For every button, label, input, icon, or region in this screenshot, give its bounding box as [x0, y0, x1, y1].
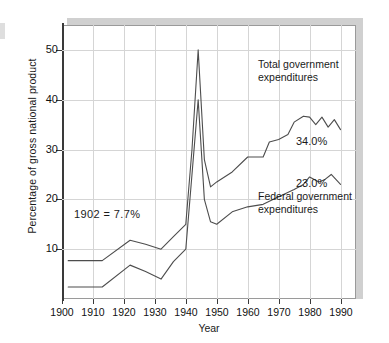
federal-series-label-line2: expenditures	[258, 203, 318, 215]
x-tick-mark	[186, 299, 187, 304]
total-series-label: Total governmentexpenditures	[258, 58, 339, 84]
x-tick-mark	[310, 299, 311, 304]
chart-figure: 1020304050 19001910192019301940195019601…	[0, 0, 389, 343]
y-axis-label: Percentage of gross national product	[26, 36, 38, 256]
plot-shadow-right	[356, 18, 363, 299]
x-tick-label: 1990	[321, 306, 361, 318]
baseline-annotation: 1902 = 7.7%	[74, 208, 140, 221]
y-tick-label: 30	[36, 144, 58, 155]
x-tick-mark	[155, 299, 156, 304]
scan-edge-artifact	[0, 23, 5, 39]
x-tick-mark	[62, 299, 63, 304]
x-tick-mark	[93, 299, 94, 304]
y-tick-label: 50	[36, 44, 58, 55]
y-tick-label: 20	[36, 193, 58, 204]
x-axis-label: Year	[62, 322, 356, 334]
total-series-label-line1: Total government	[258, 58, 339, 70]
plot-shadow-top	[67, 18, 363, 25]
total-series-label-line2: expenditures	[258, 71, 318, 83]
y-tick-label: 10	[36, 243, 58, 254]
total-end-value: 34.0%	[296, 135, 327, 148]
x-tick-mark	[217, 299, 218, 304]
x-tick-mark	[124, 299, 125, 304]
x-tick-mark	[341, 299, 342, 304]
x-tick-mark	[248, 299, 249, 304]
x-tick-mark	[279, 299, 280, 304]
federal-series-label-line1: Federal government	[258, 190, 352, 202]
y-tick-label: 40	[36, 94, 58, 105]
federal-end-value: 23.0%	[296, 177, 327, 190]
federal-series-label: Federal governmentexpenditures	[258, 190, 352, 216]
